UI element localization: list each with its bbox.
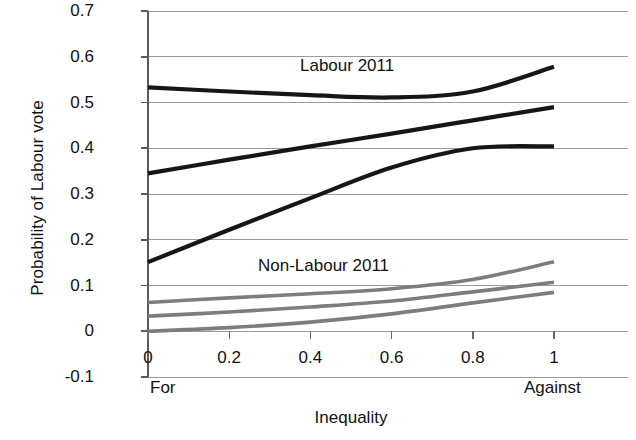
x-axis-tick-label: 0.2 [217, 348, 241, 368]
x-axis-label: Inequality [148, 408, 554, 428]
x-axis-tick-label: 1 [549, 348, 558, 368]
x-axis-tick-label: 0.8 [461, 348, 485, 368]
series-annotation-non-labour: Non-Labour 2011 [258, 256, 389, 276]
x-axis-end-label-left: For [150, 378, 176, 398]
series-line [148, 107, 554, 173]
x-axis-end-label-right: Against [524, 378, 581, 398]
chart-figure: Probability of Labour vote 0.70.60.50.40… [0, 0, 636, 440]
x-axis-tick-label: 0.4 [299, 348, 323, 368]
series-annotation-labour: Labour 2011 [300, 56, 394, 76]
x-axis-tick-label: 0 [143, 348, 152, 368]
x-axis-tick-label: 0.6 [380, 348, 404, 368]
